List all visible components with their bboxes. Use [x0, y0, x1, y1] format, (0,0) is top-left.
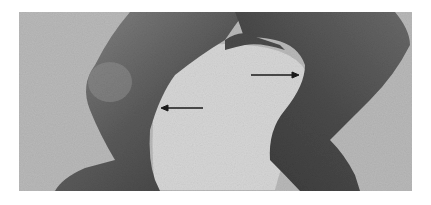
clinical-photo: Grayscale clinical photograph of a child…	[19, 12, 412, 191]
left-knee	[88, 62, 132, 102]
